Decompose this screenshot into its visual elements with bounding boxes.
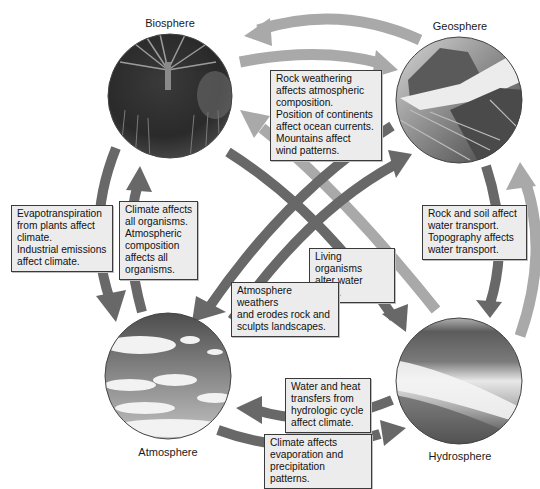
- geosphere-label: Geosphere: [400, 20, 520, 32]
- arrowhead-geo-to-bio: [244, 18, 272, 46]
- arrow-geo-to-bio: [258, 19, 420, 40]
- note-hydro-to-atmo: Water and heat transfers from hydrologic…: [285, 378, 371, 433]
- arrow-bio-to-geo: [240, 54, 384, 64]
- note-atmo-to-bio: Climate affects all organisms. Atmospher…: [119, 201, 198, 280]
- atmosphere-image: [100, 310, 240, 445]
- atmosphere-label: Atmosphere: [108, 446, 228, 458]
- biosphere-image: [100, 30, 240, 160]
- arrowhead-bio-to-atmo: [96, 290, 126, 322]
- note-atmo-to-geo: Atmosphere weathers and erodes rock and …: [231, 282, 339, 337]
- note-bio-to-atmo: Evapotranspiration from plants affect cl…: [11, 205, 113, 272]
- arrowhead-hydro-to-geo: [506, 162, 536, 190]
- arrowhead-geo-to-hydro: [476, 300, 502, 318]
- arrowhead-atmo-to-bio: [126, 166, 152, 192]
- biosphere-label: Biosphere: [110, 17, 230, 29]
- note-geo-to-atmo: Rock weathering affects atmospheric comp…: [270, 70, 382, 161]
- arrowhead-atmo-to-hydro: [380, 420, 406, 446]
- arrowhead-hydro-to-atmo: [236, 396, 262, 424]
- note-geo-to-hydro: Rock and soil affect water transport. To…: [422, 205, 527, 260]
- hydrosphere-label: Hydrosphere: [400, 450, 520, 462]
- note-atmo-to-hydro: Climate affects evaporation and precipit…: [264, 434, 372, 489]
- hydrosphere-image: [395, 316, 525, 446]
